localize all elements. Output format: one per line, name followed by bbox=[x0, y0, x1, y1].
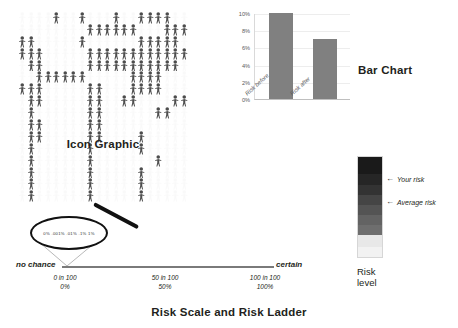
person-icon bbox=[154, 36, 163, 48]
person-icon bbox=[103, 167, 112, 179]
person-icon bbox=[35, 178, 44, 190]
person-icon bbox=[154, 60, 163, 72]
risk-scale-tick-1: 50 in 100 50% bbox=[130, 274, 200, 291]
person-icon bbox=[112, 24, 121, 36]
person-icon bbox=[35, 24, 44, 36]
person-icon bbox=[52, 83, 61, 95]
person-icon bbox=[44, 119, 53, 131]
person-icon bbox=[171, 167, 180, 179]
person-icon bbox=[163, 95, 172, 107]
person-icon bbox=[61, 95, 70, 107]
person-icon bbox=[86, 36, 95, 48]
person-icon bbox=[35, 71, 44, 83]
icon-array-grid bbox=[18, 12, 188, 134]
person-icon bbox=[44, 155, 53, 167]
person-icon bbox=[18, 178, 27, 190]
person-icon bbox=[44, 48, 53, 60]
person-icon bbox=[27, 48, 36, 60]
person-icon bbox=[18, 71, 27, 83]
person-icon bbox=[163, 12, 172, 24]
arrow-left-icon: ← bbox=[386, 198, 394, 206]
person-icon bbox=[137, 48, 146, 60]
person-icon bbox=[129, 48, 138, 60]
person-icon bbox=[129, 119, 138, 131]
person-icon bbox=[61, 60, 70, 72]
person-icon bbox=[137, 36, 146, 48]
magnifying-glass-icon: 0% .001% .01% .1% 1% bbox=[30, 216, 108, 250]
person-icon bbox=[69, 178, 78, 190]
person-icon bbox=[171, 71, 180, 83]
magnifier-zoomed-scale-text: 0% .001% .01% .1% 1% bbox=[43, 231, 94, 236]
person-icon bbox=[18, 167, 27, 179]
person-icon bbox=[86, 83, 95, 95]
person-icon bbox=[95, 24, 104, 36]
person-icon bbox=[180, 12, 189, 24]
person-icon bbox=[52, 167, 61, 179]
risk-scale-tick-fraction: 0 in 100 bbox=[30, 274, 100, 283]
person-icon bbox=[163, 48, 172, 60]
person-icon bbox=[129, 71, 138, 83]
person-icon bbox=[78, 155, 87, 167]
person-icon bbox=[120, 48, 129, 60]
person-icon bbox=[146, 83, 155, 95]
person-icon bbox=[35, 95, 44, 107]
bar-chart-caption: Bar Chart bbox=[358, 64, 412, 76]
risk-ladder-band bbox=[357, 247, 383, 258]
person-icon bbox=[35, 83, 44, 95]
person-icon bbox=[18, 155, 27, 167]
person-icon bbox=[61, 155, 70, 167]
person-icon bbox=[27, 36, 36, 48]
person-icon bbox=[163, 24, 172, 36]
person-icon bbox=[120, 178, 129, 190]
person-icon bbox=[137, 83, 146, 95]
person-icon bbox=[146, 95, 155, 107]
risk-level-caption-line-1: Risk bbox=[357, 266, 417, 277]
person-icon bbox=[103, 12, 112, 24]
risk-ladder-band bbox=[357, 174, 383, 184]
person-icon bbox=[61, 24, 70, 36]
person-icon bbox=[163, 83, 172, 95]
person-icon bbox=[78, 83, 87, 95]
person-icon bbox=[103, 71, 112, 83]
person-icon bbox=[103, 107, 112, 119]
person-icon bbox=[52, 119, 61, 131]
person-icon bbox=[103, 155, 112, 167]
risk-scale-tick-fraction: 100 in 100 bbox=[230, 274, 300, 283]
person-icon bbox=[146, 36, 155, 48]
person-icon bbox=[61, 178, 70, 190]
person-icon bbox=[120, 12, 129, 24]
person-icon bbox=[61, 107, 70, 119]
person-icon bbox=[146, 107, 155, 119]
person-icon bbox=[163, 107, 172, 119]
person-icon bbox=[154, 12, 163, 24]
person-icon bbox=[44, 36, 53, 48]
person-icon bbox=[78, 95, 87, 107]
person-icon bbox=[27, 119, 36, 131]
person-icon bbox=[129, 178, 138, 190]
person-icon bbox=[120, 95, 129, 107]
person-icon bbox=[180, 167, 189, 179]
person-icon bbox=[137, 107, 146, 119]
person-icon bbox=[18, 95, 27, 107]
person-icon bbox=[112, 48, 121, 60]
person-icon bbox=[180, 107, 189, 119]
person-icon bbox=[129, 12, 138, 24]
person-icon bbox=[18, 36, 27, 48]
person-icon bbox=[171, 95, 180, 107]
person-icon bbox=[44, 178, 53, 190]
risk-scale-tick-percent: 0% bbox=[30, 283, 100, 292]
bar-chart-y-tick: 0% bbox=[242, 97, 250, 103]
person-icon bbox=[69, 107, 78, 119]
person-icon bbox=[86, 60, 95, 72]
person-icon bbox=[154, 178, 163, 190]
person-icon bbox=[52, 12, 61, 24]
person-icon bbox=[112, 36, 121, 48]
risk-ladder-band bbox=[357, 235, 383, 246]
bar-chart-bar bbox=[269, 13, 293, 99]
person-icon bbox=[146, 167, 155, 179]
person-icon bbox=[52, 24, 61, 36]
person-icon bbox=[95, 95, 104, 107]
person-icon bbox=[154, 119, 163, 131]
person-icon bbox=[129, 95, 138, 107]
bar-chart-bar bbox=[313, 39, 337, 99]
